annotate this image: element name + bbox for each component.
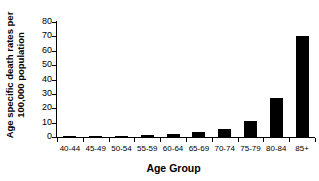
y-axis-tick-label: 40 xyxy=(30,75,52,84)
x-axis-tick-label: 70-74 xyxy=(212,144,238,154)
x-axis-tick-label: 85+ xyxy=(289,144,315,154)
x-axis-tick-label: 75-79 xyxy=(238,144,264,154)
x-axis-tick-label: 60-64 xyxy=(160,144,186,154)
x-axis-tick-label: 55-59 xyxy=(134,144,160,154)
bar xyxy=(141,135,154,137)
x-axis-tick-label: 40-44 xyxy=(57,144,83,154)
bar xyxy=(296,36,309,137)
bar-chart: Age specific death rates per 100,000 pop… xyxy=(0,0,319,181)
y-axis-tick-label: 20 xyxy=(30,103,52,112)
x-axis-tick xyxy=(109,138,110,142)
bar xyxy=(89,136,102,137)
y-axis-tick-label: 70 xyxy=(30,31,52,40)
y-axis-tick-label: 80 xyxy=(30,17,52,26)
x-axis-tick xyxy=(83,138,84,142)
bar xyxy=(63,136,76,137)
x-axis-tick-label: 65-69 xyxy=(186,144,212,154)
y-axis-tick-label: 0 xyxy=(30,132,52,141)
x-axis-tick xyxy=(57,138,58,142)
y-axis-title-line1: Age specific death rates per xyxy=(4,12,15,139)
y-axis-tick-label: 10 xyxy=(30,118,52,127)
bar xyxy=(244,121,257,137)
bar xyxy=(192,132,205,137)
y-axis-tick-label: 50 xyxy=(30,60,52,69)
x-axis-title: Age Group xyxy=(0,162,319,174)
bar xyxy=(218,129,231,137)
x-axis-tick xyxy=(263,138,264,142)
x-axis-tick-labels: 40-4445-4950-5455-5960-6465-6970-7475-79… xyxy=(57,144,315,156)
bar xyxy=(115,136,128,137)
x-axis-tick xyxy=(315,138,316,142)
x-axis-tick xyxy=(160,138,161,142)
y-axis-title-line2: 100,000 population xyxy=(15,12,26,139)
x-axis-tick-label: 45-49 xyxy=(83,144,109,154)
x-axis-tick xyxy=(289,138,290,142)
bar xyxy=(270,98,283,137)
x-axis-tick xyxy=(186,138,187,142)
y-axis-tick-labels: 01020304050607080 xyxy=(26,0,52,181)
bar xyxy=(167,134,180,137)
x-axis-tick-label: 50-54 xyxy=(109,144,135,154)
y-axis-tick-label: 60 xyxy=(30,46,52,55)
x-axis-tick xyxy=(238,138,239,142)
x-axis-tick-label: 80-84 xyxy=(263,144,289,154)
y-axis-tick-label: 30 xyxy=(30,89,52,98)
x-axis-tick xyxy=(212,138,213,142)
x-axis-tick xyxy=(134,138,135,142)
bar-series xyxy=(57,22,315,137)
